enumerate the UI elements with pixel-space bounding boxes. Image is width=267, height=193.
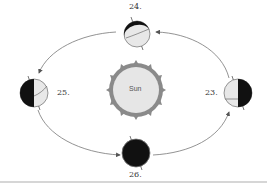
label-23: 23. xyxy=(205,88,218,97)
label-25: 25. xyxy=(57,88,70,97)
bottom-divider xyxy=(0,181,267,183)
arrow-24-to-25 xyxy=(39,32,116,73)
earth-orbit-diagram: Sun 24. 25. 23. 26. xyxy=(0,0,267,193)
orbit-svg xyxy=(0,0,267,193)
earth-position-25 xyxy=(20,76,48,110)
label-24: 24. xyxy=(129,2,142,11)
arrow-25-to-26 xyxy=(38,110,120,155)
arrow-23-to-24 xyxy=(156,32,229,78)
earth-position-24 xyxy=(121,17,150,50)
sun-label: Sun xyxy=(129,85,141,92)
earth-position-26 xyxy=(122,136,150,170)
label-26: 26. xyxy=(129,170,142,179)
arrow-26-to-23 xyxy=(153,112,229,155)
earth-position-23 xyxy=(224,76,252,110)
